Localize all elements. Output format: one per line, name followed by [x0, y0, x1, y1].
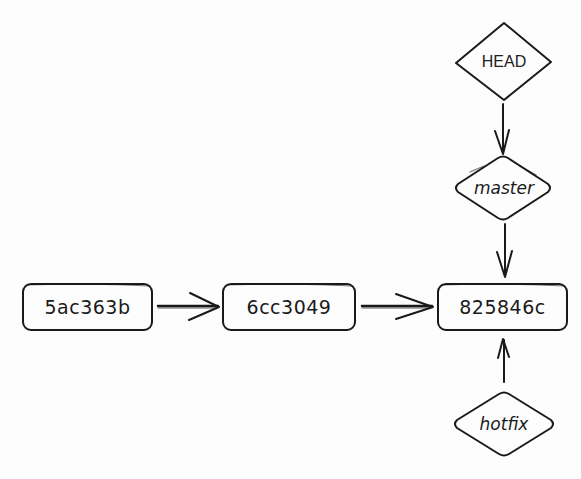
arrow-head-to-master: [495, 104, 509, 154]
arrow-hotfix-to-825846c: [498, 339, 509, 382]
arrow-5ac363b-to-6cc3049: [158, 293, 219, 320]
head-ref-label: HEAD: [456, 48, 552, 76]
hotfix-ref-label: hotfix: [456, 410, 552, 438]
commit-label-5ac363b: 5ac363b: [23, 284, 152, 330]
arrow-master-to-825846c: [497, 224, 512, 277]
arrow-6cc3049-to-825846c: [362, 294, 433, 319]
master-ref-label: master: [456, 174, 552, 202]
commit-label-825846c: 825846c: [438, 284, 567, 330]
commit-label-6cc3049: 6cc3049: [223, 284, 355, 330]
git-branch-diagram: 5ac363b 6cc3049 825846c HEAD master hotf…: [0, 0, 581, 479]
